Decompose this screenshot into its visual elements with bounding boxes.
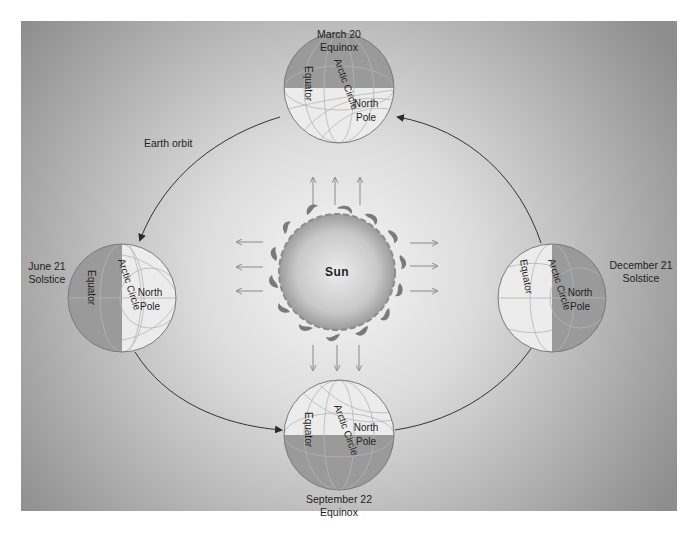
globe-march-north-label: North bbox=[354, 98, 378, 109]
march-event-label: Equinox bbox=[320, 41, 359, 53]
september-date-label: September 22 bbox=[306, 493, 372, 505]
march-date-label: March 20 bbox=[317, 28, 361, 40]
june-date-label: June 21 bbox=[28, 260, 66, 272]
december-date-label: December 21 bbox=[609, 259, 672, 271]
december-event-label: Solstice bbox=[623, 272, 660, 284]
orbit-label: Earth orbit bbox=[144, 137, 193, 149]
globe-march-pole-label: Pole bbox=[356, 112, 376, 123]
globe-september: Equator Arctic Circle North Pole bbox=[284, 380, 394, 491]
sun-label: Sun bbox=[325, 265, 349, 279]
globe-december-north-label: North bbox=[568, 287, 592, 298]
globe-june-equator-label: Equator bbox=[86, 270, 97, 306]
seasons-diagram: Earth orbit bbox=[0, 0, 697, 537]
globe-march-equator-label: Equator bbox=[303, 66, 314, 102]
globe-june-pole-label: Pole bbox=[140, 301, 160, 312]
september-event-label: Equinox bbox=[320, 506, 359, 518]
globe-december-pole-label: Pole bbox=[570, 301, 590, 312]
globe-september-equator-label: Equator bbox=[303, 412, 314, 448]
globe-september-north-label: North bbox=[354, 422, 378, 433]
globe-september-pole-label: Pole bbox=[356, 436, 376, 447]
june-event-label: Solstice bbox=[29, 273, 66, 285]
globe-june-north-label: North bbox=[138, 287, 162, 298]
